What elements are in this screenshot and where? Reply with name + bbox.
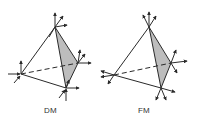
- fm-top-arrows-icon: [143, 12, 156, 27]
- fm-right-arrows-icon: [171, 50, 187, 73]
- fm-shaded-face: [149, 27, 171, 88]
- dm-edge: [21, 27, 55, 74]
- fm-tetrahedron: [101, 12, 187, 100]
- fm-edge: [114, 27, 149, 75]
- dm-bottom-arrows-icon: [59, 80, 79, 101]
- dm-tetrahedron: [8, 13, 91, 101]
- fm-left-arrows-icon: [101, 71, 114, 84]
- dm-right-arrows-icon: [78, 50, 91, 63]
- fm-bottom-arrows-icon: [156, 88, 175, 100]
- tetrahedra-figure: [0, 0, 198, 125]
- dm-label: DM: [44, 106, 57, 115]
- dm-edge: [21, 74, 66, 88]
- fm-label: FM: [138, 106, 150, 115]
- dm-shaded-face: [55, 27, 78, 88]
- dm-left-arrows-icon: [8, 61, 21, 83]
- fm-edge: [114, 75, 161, 88]
